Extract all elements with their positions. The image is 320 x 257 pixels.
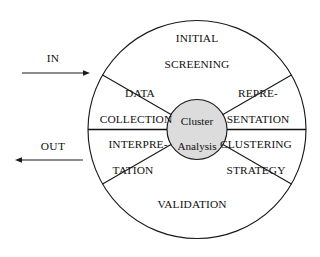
hub-label-line2: Analysis [177, 140, 216, 152]
flow-label-in: IN [47, 52, 60, 64]
hub-label-line1: Cluster [181, 115, 214, 127]
flow-label-out: OUT [41, 140, 65, 152]
wheel-graphic: IN OUT INITIAL SCREENING REPRE- SENTATIO… [0, 0, 320, 257]
sector-clustering-strategy-line1: CLUSTERING [220, 138, 292, 150]
sector-interpretation-line1: INTERPRE- [108, 138, 167, 150]
sector-clustering-strategy-line2: STRATEGY [226, 164, 285, 176]
sector-representation-line1: REPRE- [238, 87, 278, 99]
sector-interpretation-line2: TATION [113, 164, 154, 176]
sector-initial-screening-line2: SCREENING [165, 58, 230, 70]
sector-representation-line2: SENTATION [227, 113, 290, 125]
in-arrow-head-icon [83, 70, 90, 76]
sector-validation-line1: VALIDATION [157, 198, 226, 210]
sector-initial-screening-line1: INITIAL [176, 32, 218, 44]
sector-data-collection-line2: COLLECTION [100, 113, 173, 125]
cluster-analysis-diagram: IN OUT INITIAL SCREENING REPRE- SENTATIO… [0, 0, 320, 257]
sector-data-collection-line1: DATA [125, 87, 156, 99]
out-arrow-head-icon [15, 157, 22, 163]
